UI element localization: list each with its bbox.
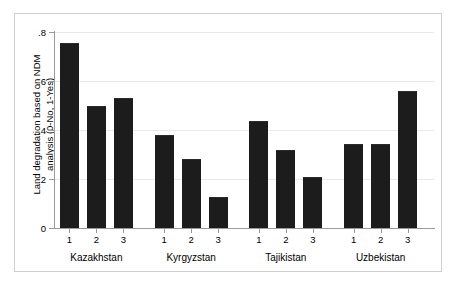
bar [87,106,106,229]
y-tick-label: 0 [6,223,46,234]
x-tick-mark [381,229,382,233]
bar [114,98,133,228]
x-tick-mark [218,229,219,233]
x-tick-mark [354,229,355,233]
x-tick-mark [164,229,165,233]
x-category-label: 2 [366,234,396,245]
gridline [55,130,434,131]
x-category-label: 3 [203,234,233,245]
x-tick-mark [408,229,409,233]
bar [344,144,363,228]
bar [155,135,174,228]
x-category-label: 3 [298,234,328,245]
x-category-label: 3 [108,234,138,245]
x-category-label: 2 [176,234,206,245]
bar [209,197,228,228]
bar [276,150,295,228]
x-category-label: 1 [244,234,274,245]
bar [303,177,322,228]
gridline [55,32,434,33]
x-tick-mark [313,229,314,233]
x-category-label: 2 [271,234,301,245]
gridline [55,81,434,82]
x-tick-mark [123,229,124,233]
x-category-label: 3 [393,234,423,245]
y-tick-label: .2 [6,174,46,185]
y-tick-label: .4 [6,125,46,136]
plot-area [55,32,434,228]
x-tick-mark [191,229,192,233]
y-tick-label: .8 [6,27,46,38]
y-tick-label: .6 [6,76,46,87]
bar [60,43,79,228]
x-category-label: 2 [81,234,111,245]
x-axis-line [54,228,435,229]
x-tick-mark [259,229,260,233]
x-group-label: Uzbekistan [321,252,441,263]
x-category-label: 1 [339,234,369,245]
bar [249,121,268,228]
x-category-label: 1 [54,234,84,245]
bar [398,91,417,228]
bar [182,159,201,228]
bar [371,144,390,228]
x-tick-mark [96,229,97,233]
x-tick-mark [286,229,287,233]
x-category-label: 1 [149,234,179,245]
chart-figure: Land degradation based on NDM analysis (… [0,0,456,283]
x-tick-mark [69,229,70,233]
